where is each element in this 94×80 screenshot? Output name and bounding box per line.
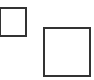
- small-square: [0, 7, 27, 37]
- diagram-canvas: [0, 0, 94, 80]
- large-square: [43, 27, 91, 77]
